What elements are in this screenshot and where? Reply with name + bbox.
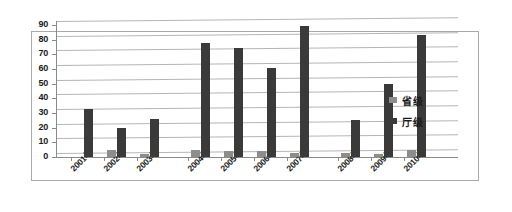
bar-sheng [290,153,299,157]
bar-ting [234,48,243,157]
bar-ting [267,68,276,157]
bar-sheng [341,153,350,157]
bar-sheng [191,150,200,157]
bar-ting [84,109,93,157]
bar-sheng [224,151,233,157]
legend-swatch-icon-1 [389,118,397,124]
legend-item-0: 省级 [389,94,424,106]
bar-chart: 90807060504030201002001年2002年2003年2004年2… [0,0,512,212]
y-axis-tick-label: 50 [24,78,48,88]
y-axis-tick-label: 80 [24,34,48,44]
chart-legend: 省级 厅级 [389,94,424,136]
grid-line [56,76,458,81]
bar-ting [351,120,360,157]
grid-line [56,61,458,66]
y-axis-tick-label: 90 [24,19,48,29]
bar-ting [117,128,126,157]
bar-ting [150,119,159,157]
grid-line [56,17,458,22]
y-axis-tick-label: 70 [24,48,48,58]
grid-line [56,32,458,37]
y-axis-tick-label: 60 [24,63,48,73]
y-axis-tick-label: 40 [24,92,48,102]
bar-ting [201,43,210,157]
y-axis-line [56,21,57,157]
y-axis-tick-label: 0 [24,151,48,161]
bar-sheng [107,150,116,157]
legend-label-1: 厅级 [402,114,424,129]
bar-ting [300,26,309,157]
legend-swatch-icon-0 [389,97,397,103]
y-axis-tick-label: 30 [24,107,48,117]
grid-line [56,46,458,51]
legend-label-0: 省级 [402,93,424,108]
bar-sheng [140,154,149,157]
bar-sheng [257,151,266,157]
bar-sheng [374,154,383,157]
legend-item-1: 厅级 [389,115,424,127]
bar-sheng [407,150,416,157]
y-axis-tick-label: 20 [24,122,48,132]
y-axis-tick-label: 10 [24,136,48,146]
